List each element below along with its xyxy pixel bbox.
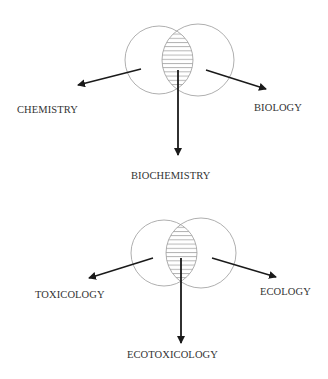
diagram-canvas bbox=[0, 0, 328, 379]
arrow-left bbox=[89, 258, 153, 278]
label-ecotoxicology: ECOTOXICOLOGY bbox=[127, 350, 218, 361]
arrow-left bbox=[78, 69, 141, 85]
label-biochemistry: BIOCHEMISTRY bbox=[131, 171, 210, 182]
label-chemistry: CHEMISTRY bbox=[17, 105, 78, 116]
label-toxicology: TOXICOLOGY bbox=[35, 290, 105, 301]
label-biology: BIOLOGY bbox=[254, 103, 302, 114]
label-ecology: ECOLOGY bbox=[260, 287, 311, 298]
arrow-right bbox=[206, 70, 266, 89]
venn-diagrams-figure: CHEMISTRY BIOLOGY BIOCHEMISTRY TOXICOLOG… bbox=[0, 0, 328, 379]
ecotoxicology-venn bbox=[89, 218, 276, 343]
arrow-right bbox=[212, 258, 276, 277]
biochemistry-venn bbox=[78, 24, 266, 155]
